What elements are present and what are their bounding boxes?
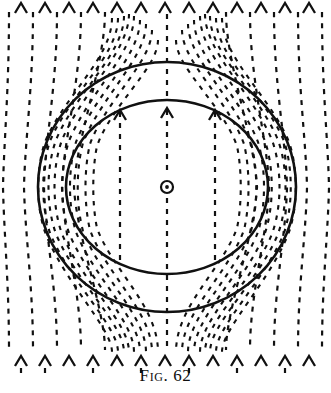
current-symbol-dot bbox=[165, 185, 169, 189]
figure-caption: Fig. 62 bbox=[0, 366, 331, 386]
magnetic-field-diagram bbox=[0, 0, 331, 393]
figure-container: Fig. 62 bbox=[0, 0, 331, 393]
